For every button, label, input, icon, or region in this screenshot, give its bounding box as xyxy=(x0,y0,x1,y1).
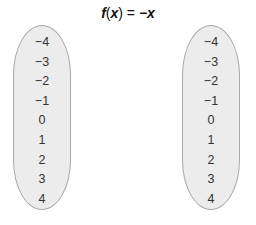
function-title: f(x) = −x xyxy=(0,5,256,21)
range-value: 0 xyxy=(183,111,239,131)
domain-oval: −4 −3 −2 −1 0 1 2 3 4 xyxy=(13,25,71,210)
range-value: −1 xyxy=(183,92,239,112)
range-value: 2 xyxy=(183,151,239,171)
domain-value: −4 xyxy=(14,33,70,53)
domain-value: 1 xyxy=(14,131,70,151)
range-oval: −4 −3 −2 −1 0 1 2 3 4 xyxy=(182,25,240,210)
domain-value: −3 xyxy=(14,53,70,73)
range-value: −2 xyxy=(183,72,239,92)
range-value: 1 xyxy=(183,131,239,151)
domain-value: 4 xyxy=(14,190,70,210)
range-value: −3 xyxy=(183,53,239,73)
domain-value: 0 xyxy=(14,111,70,131)
range-value: 3 xyxy=(183,170,239,190)
range-value-list: −4 −3 −2 −1 0 1 2 3 4 xyxy=(183,33,239,209)
domain-value: −2 xyxy=(14,72,70,92)
domain-value: 3 xyxy=(14,170,70,190)
range-value: −4 xyxy=(183,33,239,53)
title-rhs: −x xyxy=(139,5,155,21)
domain-value: 2 xyxy=(14,151,70,171)
domain-value: −1 xyxy=(14,92,70,112)
domain-value-list: −4 −3 −2 −1 0 1 2 3 4 xyxy=(14,33,70,209)
range-value: 4 xyxy=(183,190,239,210)
title-equals: = xyxy=(123,5,139,21)
